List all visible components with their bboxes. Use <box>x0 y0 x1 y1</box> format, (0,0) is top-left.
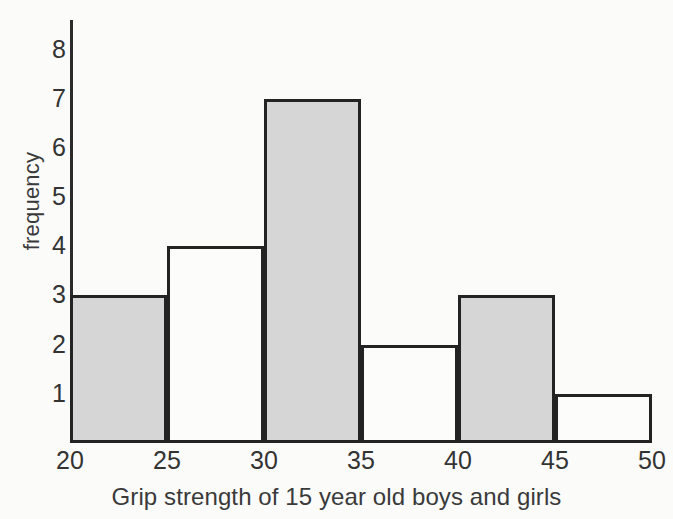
histogram-bar <box>555 394 652 443</box>
x-axis-caption: Grip strength of 15 year old boys and gi… <box>0 483 673 511</box>
plot-area <box>70 20 652 443</box>
x-tick-label: 25 <box>140 448 194 473</box>
x-tick-label: 30 <box>237 448 291 473</box>
histogram-figure: frequency 8 7 6 5 4 3 2 1 20 25 30 35 40… <box>0 0 673 519</box>
y-tick-label: 7 <box>40 86 66 111</box>
histogram-bar <box>264 99 361 443</box>
y-tick-label: 8 <box>40 37 66 62</box>
x-tick-label: 50 <box>625 448 673 473</box>
histogram-bar <box>167 246 264 443</box>
x-tick-label: 45 <box>528 448 582 473</box>
y-axis-tick-labels: 8 7 6 5 4 3 2 1 <box>36 0 66 519</box>
y-tick-label: 3 <box>40 282 66 307</box>
x-tick-label: 35 <box>334 448 388 473</box>
x-tick-label: 40 <box>431 448 485 473</box>
y-tick-label: 6 <box>40 135 66 160</box>
x-axis-tick-labels: 20 25 30 35 40 45 50 <box>0 448 673 482</box>
y-tick-label: 2 <box>40 332 66 357</box>
x-tick-label: 20 <box>43 448 97 473</box>
histogram-bar <box>458 295 555 443</box>
y-tick-label: 1 <box>40 381 66 406</box>
histogram-bar <box>70 295 167 443</box>
y-tick-label: 5 <box>40 184 66 209</box>
histogram-bar <box>361 345 458 443</box>
y-tick-label: 4 <box>40 233 66 258</box>
